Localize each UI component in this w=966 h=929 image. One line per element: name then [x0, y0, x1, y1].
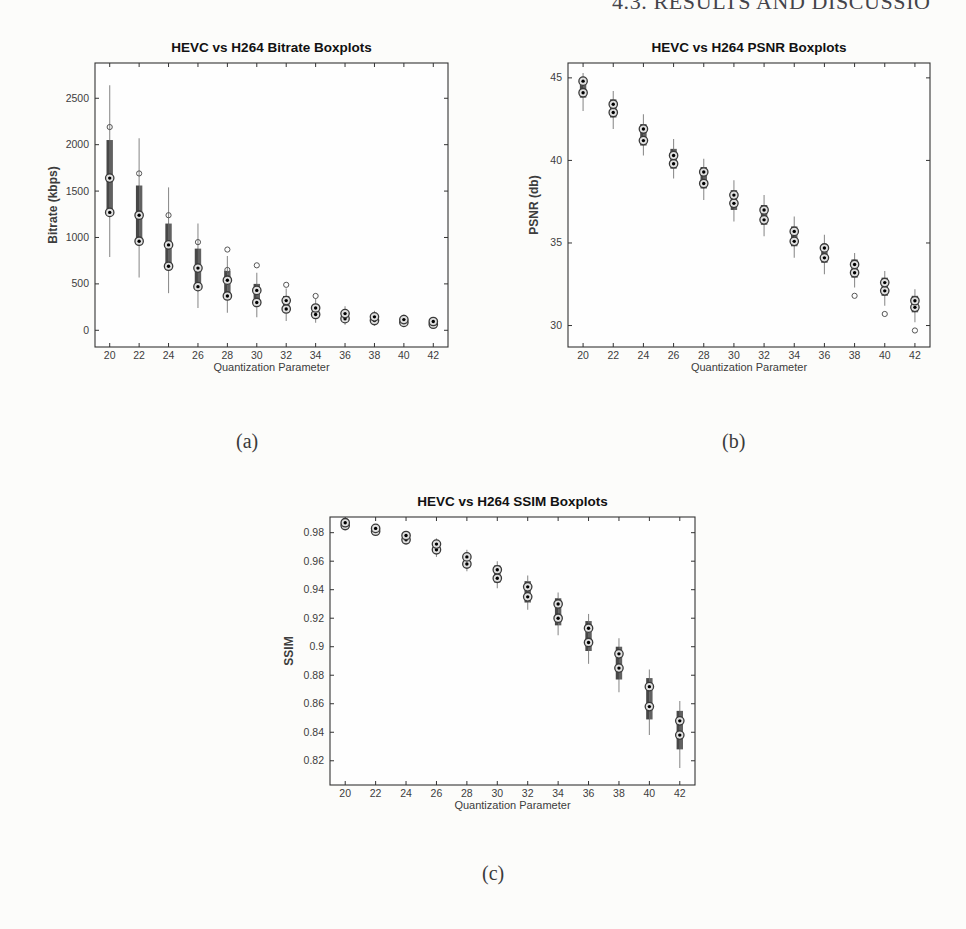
psnr-ytick-label: 30	[550, 319, 562, 331]
ssim-ytick-label: 0.94	[304, 583, 325, 595]
bitrate-ylabel: Bitrate (kbps)	[46, 166, 60, 243]
psnr-median-dot	[793, 230, 796, 233]
psnr-median-dot	[762, 208, 765, 211]
bitrate-ytick-label: 1500	[66, 185, 90, 197]
psnr-median-dot	[913, 306, 916, 309]
ssim-boxplot-qp-22	[371, 524, 379, 535]
bitrate-boxplot-qp-42	[429, 317, 437, 328]
bitrate-median-dot	[432, 320, 435, 323]
bitrate-median-dot	[226, 294, 229, 297]
bitrate-median-dot	[137, 239, 140, 242]
ssim-xtick-label: 32	[522, 787, 534, 799]
bitrate-boxplot-chart: 0500100015002000250020222426283032343638…	[20, 36, 470, 386]
psnr-median-dot	[581, 79, 584, 82]
ssim-ylabel: SSIM	[282, 636, 296, 665]
ssim-median-dot	[587, 641, 590, 644]
bitrate-boxplot-qp-40	[400, 315, 408, 327]
bitrate-median-dot	[167, 243, 170, 246]
ssim-boxplot-chart: 0.820.840.860.880.90.920.940.960.9820222…	[270, 488, 720, 828]
psnr-xtick-label: 34	[788, 349, 800, 361]
psnr-xtick-label: 20	[577, 349, 589, 361]
bitrate-median-dot	[167, 265, 170, 268]
psnr-median-dot	[732, 202, 735, 205]
figure-c-ssim-chart: 0.820.840.860.880.90.920.940.960.9820222…	[270, 488, 720, 832]
ssim-xtick-label: 28	[461, 787, 473, 799]
bitrate-plot-area	[95, 63, 448, 347]
ssim-median-dot	[587, 626, 590, 629]
bitrate-xtick-label: 40	[398, 349, 410, 361]
subfigure-caption-b: (b)	[722, 430, 745, 453]
ssim-ytick-label: 0.84	[304, 726, 325, 738]
psnr-median-dot	[672, 154, 675, 157]
bitrate-median-dot	[314, 313, 317, 316]
bitrate-xtick-label: 28	[222, 349, 234, 361]
ssim-xtick-label: 26	[431, 787, 443, 799]
ssim-median-dot	[465, 555, 468, 558]
figure-b-psnr-chart: 30354045202224262830323436384042HEVC vs …	[490, 36, 950, 390]
ssim-xtick-label: 42	[674, 787, 686, 799]
ssim-median-dot	[496, 568, 499, 571]
ssim-median-dot	[556, 617, 559, 620]
ssim-median-dot	[435, 542, 438, 545]
psnr-xtick-label: 42	[909, 349, 921, 361]
ssim-median-dot	[374, 527, 377, 530]
ssim-xtick-label: 36	[583, 787, 595, 799]
psnr-ytick-label: 45	[550, 71, 562, 83]
running-header: 4.3. RESULTS AND DISCUSSIO	[612, 0, 931, 15]
bitrate-xtick-label: 30	[251, 349, 263, 361]
ssim-ytick-label: 0.9	[309, 640, 324, 652]
psnr-median-dot	[823, 246, 826, 249]
document-page: 4.3. RESULTS AND DISCUSSIO 0500100015002…	[0, 0, 966, 929]
psnr-median-dot	[853, 263, 856, 266]
ssim-plot-area	[330, 517, 695, 785]
ssim-ytick-label: 0.86	[304, 697, 325, 709]
bitrate-median-dot	[255, 289, 258, 292]
subfigure-caption-a: (a)	[236, 430, 258, 453]
ssim-xtick-label: 30	[491, 787, 503, 799]
bitrate-xtick-label: 42	[427, 349, 439, 361]
psnr-median-dot	[762, 218, 765, 221]
psnr-xtick-label: 30	[728, 349, 740, 361]
bitrate-xtick-label: 22	[133, 349, 145, 361]
bitrate-boxplot-qp-38	[370, 311, 378, 326]
bitrate-ytick-label: 2000	[66, 138, 90, 150]
psnr-xtick-label: 28	[698, 349, 710, 361]
psnr-ytick-label: 35	[550, 236, 562, 248]
bitrate-chart-title: HEVC vs H264 Bitrate Boxplots	[171, 40, 371, 55]
psnr-median-dot	[883, 281, 886, 284]
bitrate-ytick-label: 0	[83, 324, 89, 336]
psnr-median-dot	[642, 139, 645, 142]
ssim-median-dot	[678, 733, 681, 736]
psnr-xtick-label: 32	[758, 349, 770, 361]
psnr-xlabel: Quantization Parameter	[691, 361, 808, 373]
psnr-median-dot	[732, 193, 735, 196]
psnr-median-dot	[612, 111, 615, 114]
psnr-median-dot	[702, 170, 705, 173]
ssim-chart-title: HEVC vs H264 SSIM Boxplots	[417, 494, 608, 509]
ssim-xtick-label: 38	[613, 787, 625, 799]
ssim-median-dot	[648, 685, 651, 688]
bitrate-xtick-label: 38	[369, 349, 381, 361]
bitrate-xlabel: Quantization Parameter	[213, 361, 330, 373]
psnr-xtick-label: 26	[668, 349, 680, 361]
ssim-xlabel: Quantization Parameter	[454, 799, 571, 811]
bitrate-median-dot	[137, 214, 140, 217]
psnr-median-dot	[913, 299, 916, 302]
psnr-median-dot	[642, 127, 645, 130]
bitrate-xtick-label: 36	[339, 349, 351, 361]
psnr-median-dot	[883, 289, 886, 292]
psnr-xtick-label: 38	[849, 349, 861, 361]
psnr-plot-area	[568, 63, 930, 347]
psnr-median-dot	[672, 162, 675, 165]
ssim-median-dot	[617, 652, 620, 655]
bitrate-median-dot	[402, 318, 405, 321]
ssim-median-dot	[496, 577, 499, 580]
ssim-xtick-label: 22	[370, 787, 382, 799]
bitrate-median-dot	[226, 278, 229, 281]
ssim-ytick-label: 0.88	[304, 669, 325, 681]
bitrate-xtick-label: 26	[192, 349, 204, 361]
bitrate-xtick-label: 34	[310, 349, 322, 361]
ssim-median-dot	[556, 602, 559, 605]
psnr-xtick-label: 24	[638, 349, 650, 361]
bitrate-median-dot	[314, 306, 317, 309]
